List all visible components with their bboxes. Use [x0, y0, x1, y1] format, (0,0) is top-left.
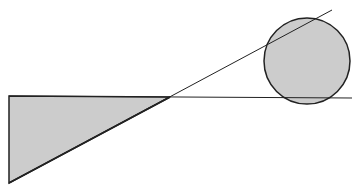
- geometry-diagram: [0, 0, 361, 192]
- shaded-circle: [264, 18, 350, 104]
